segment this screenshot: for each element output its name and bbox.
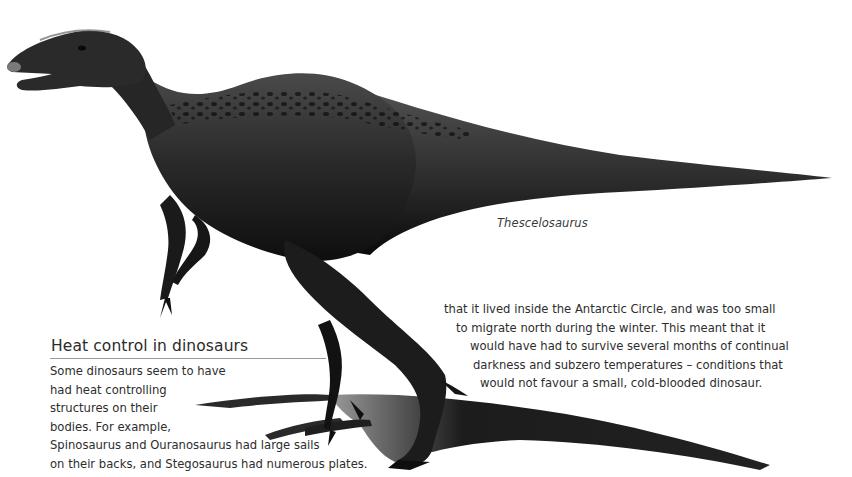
sidebar-body: Some dinosaurs seem to have had heat con… (50, 362, 370, 474)
sidebar-line: structures on their (50, 399, 370, 418)
figure-caption: Thescelosaurus (497, 216, 588, 230)
body-paragraph: that it lived inside the Antarctic Circl… (440, 300, 789, 393)
sidebar-line: Some dinosaurs seem to have (50, 362, 370, 381)
body-line: to migrate north during the winter. This… (440, 319, 789, 338)
sidebar-line: had heat controlling (50, 381, 370, 400)
heat-control-sidebar: Heat control in dinosaurs Some dinosaurs… (50, 337, 370, 474)
body-line: darkness and subzero temperatures – cond… (440, 356, 789, 375)
body-line: would not favour a small, cold-blooded d… (440, 374, 789, 393)
body-line: would have had to survive several months… (440, 337, 789, 356)
sidebar-line: Spinosaurus and Ouranosaurus had large s… (50, 436, 370, 455)
sidebar-line: on their backs, and Stegosaurus had nume… (50, 455, 370, 474)
body-line: that it lived inside the Antarctic Circl… (440, 300, 789, 319)
sidebar-line: bodies. For example, (50, 418, 370, 437)
sidebar-title: Heat control in dinosaurs (50, 337, 326, 359)
